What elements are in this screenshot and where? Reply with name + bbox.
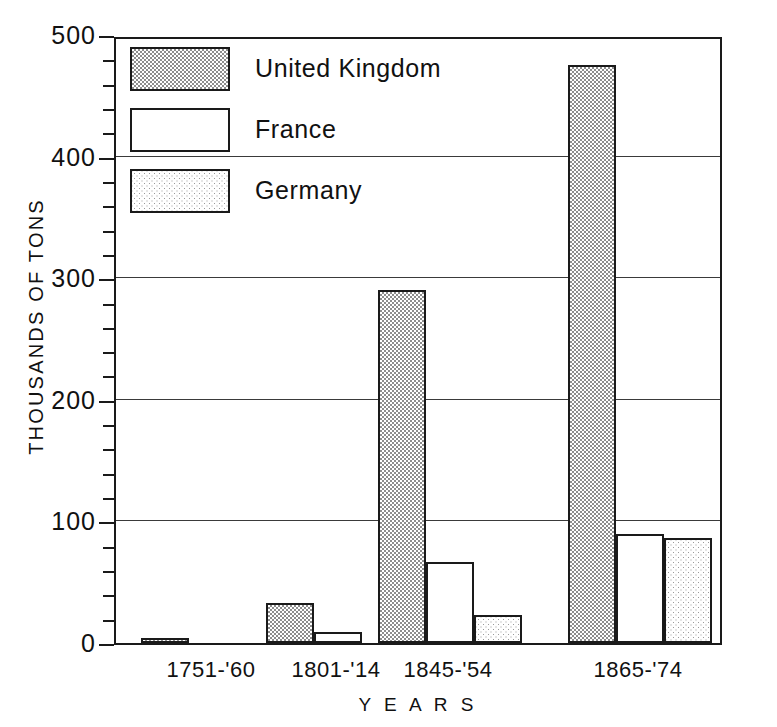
legend-swatch-france	[130, 108, 230, 152]
bar-france-3	[616, 534, 664, 643]
y-tick-minor-420	[103, 133, 114, 135]
legend-label-germany: Germany	[255, 176, 362, 205]
bar-united-kingdom-2	[378, 290, 426, 643]
y-tick-minor-80	[103, 547, 114, 549]
y-tick-minor-240	[103, 352, 114, 354]
y-tick-minor-20	[103, 620, 114, 622]
plot-area: United KingdomFranceGermany	[114, 37, 722, 645]
y-tick-label-300: 300	[4, 266, 96, 291]
y-tick-label-0: 0	[4, 631, 96, 656]
y-tick-label-100: 100	[4, 509, 96, 534]
bar-united-kingdom-3	[568, 65, 616, 643]
y-tick-major-100	[99, 522, 114, 524]
y-tick-minor-460	[103, 85, 114, 87]
y-tick-minor-440	[103, 109, 114, 111]
y-tick-minor-40	[103, 595, 114, 597]
gridline-300	[116, 277, 720, 278]
x-tick-label-3: 1865-'74	[548, 657, 728, 683]
y-tick-minor-340	[103, 231, 114, 233]
y-tick-minor-280	[103, 304, 114, 306]
bar-united-kingdom-1	[266, 603, 314, 643]
y-tick-minor-360	[103, 206, 114, 208]
y-tick-minor-180	[103, 425, 114, 427]
y-tick-major-300	[99, 279, 114, 281]
legend-label-united-kingdom: United Kingdom	[255, 54, 441, 83]
y-tick-label-500: 500	[4, 23, 96, 48]
y-tick-minor-140	[103, 474, 114, 476]
y-tick-major-400	[99, 158, 114, 160]
bar-chart-figure: THOUSANDS OF TONS 0100200300400500 Unite…	[0, 0, 777, 727]
bar-france-2	[426, 562, 474, 643]
y-tick-minor-120	[103, 498, 114, 500]
x-axis-title: Y E A R S	[114, 694, 722, 716]
y-tick-label-400: 400	[4, 145, 96, 170]
bar-united-kingdom-0	[141, 638, 189, 643]
legend-swatch-germany	[130, 169, 230, 213]
y-tick-minor-320	[103, 255, 114, 257]
y-tick-label-200: 200	[4, 388, 96, 413]
x-tick-label-2: 1845-'54	[358, 657, 538, 683]
gridline-400	[116, 156, 720, 157]
y-tick-minor-480	[103, 60, 114, 62]
y-tick-major-0	[99, 644, 114, 646]
bar-germany-2	[474, 615, 522, 643]
y-tick-minor-160	[103, 449, 114, 451]
y-tick-minor-260	[103, 328, 114, 330]
y-tick-major-200	[99, 401, 114, 403]
y-tick-minor-380	[103, 182, 114, 184]
legend-label-france: France	[255, 115, 336, 144]
y-tick-major-500	[99, 36, 114, 38]
bar-germany-3	[664, 538, 712, 643]
y-tick-minor-60	[103, 571, 114, 573]
legend-swatch-united-kingdom	[130, 47, 230, 91]
y-tick-minor-220	[103, 376, 114, 378]
bar-france-1	[314, 632, 362, 643]
